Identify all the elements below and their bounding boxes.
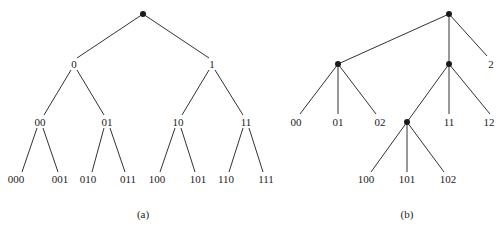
panel-b-caption: (b) [401,208,414,221]
node-label-b01: 01 [333,116,344,128]
panel-a-caption: (a) [137,208,150,221]
node-label-11: 11 [241,116,252,128]
node-label-01: 01 [102,116,113,128]
panel-a-root-node [140,11,146,17]
node-label-001: 001 [52,173,69,185]
node-label-b02: 02 [375,116,386,128]
panel-b-node-1 [446,61,452,67]
node-label-101: 101 [190,173,207,185]
panel-b-edges [300,14,490,172]
node-label-b101: 101 [399,173,416,185]
node-label-10: 10 [173,116,185,128]
node-label-011: 011 [120,173,136,185]
node-label-b2: 2 [488,58,494,70]
node-label-b11: 11 [444,116,455,128]
node-label-b12: 12 [484,116,495,128]
panel-b-node-10 [404,119,410,125]
node-label-000: 000 [8,173,25,185]
node-label-0: 0 [71,58,77,70]
node-label-b100: 100 [358,173,375,185]
tree-figure: 0 1 00 01 10 11 000 001 010 011 100 101 … [0,0,500,234]
panel-b-node-0 [335,61,341,67]
node-label-1: 1 [209,58,215,70]
panel-a-edges [22,14,263,172]
node-label-b102: 102 [440,173,457,185]
node-label-110: 110 [218,173,235,185]
panel-a-labels: 0 1 00 01 10 11 000 001 010 011 100 101 … [8,58,274,221]
node-label-010: 010 [80,173,97,185]
node-label-b00: 00 [291,116,303,128]
node-label-111: 111 [258,173,274,185]
node-label-100: 100 [149,173,166,185]
panel-b-root-node [446,11,452,17]
node-label-00: 00 [35,116,47,128]
